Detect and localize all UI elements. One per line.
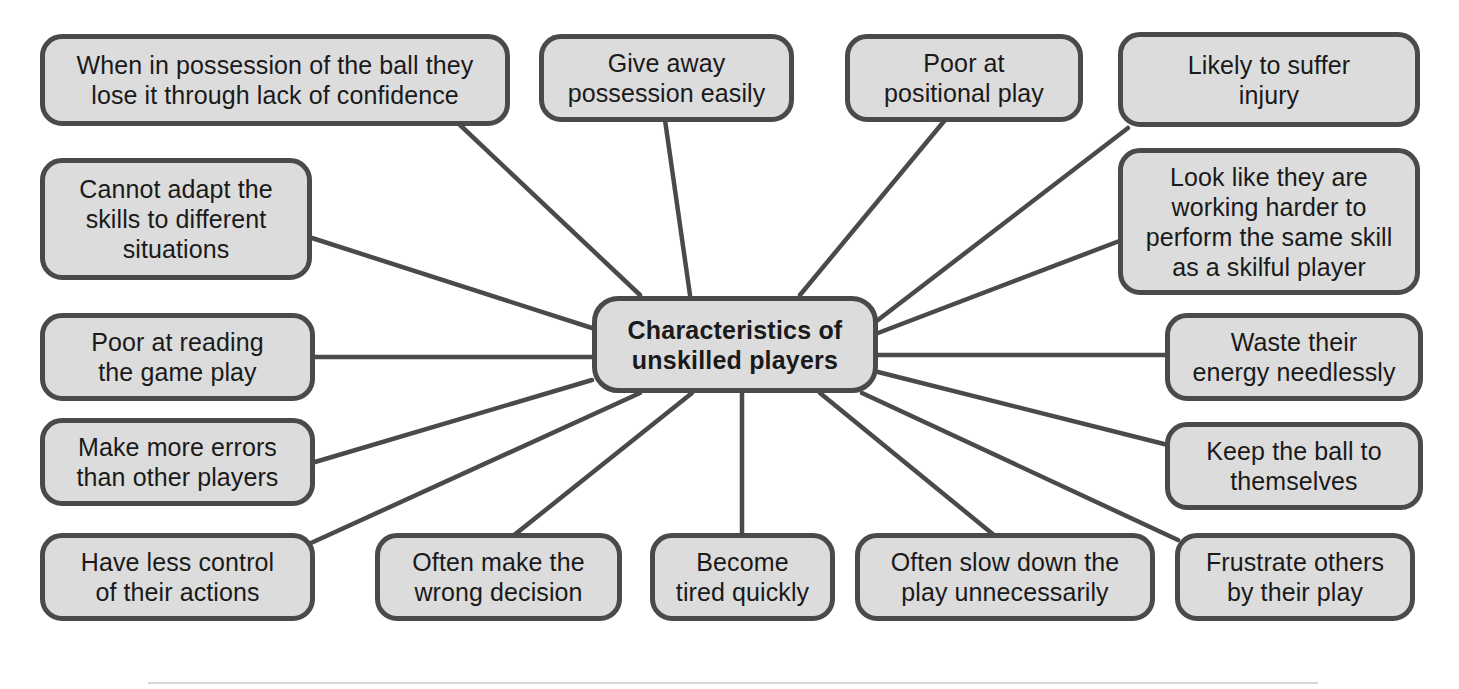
node-frustrate-others[interactable]: Frustrate others by their play <box>1175 533 1415 621</box>
center-node-label: Characteristics of unskilled players <box>618 315 853 375</box>
node-lose-possession-confidence[interactable]: When in possession of the ball they lose… <box>40 34 510 126</box>
node-label: Poor at reading the game play <box>81 327 273 387</box>
node-label: Have less control of their actions <box>71 547 284 607</box>
node-label: Often slow down the play unnecessarily <box>881 547 1129 607</box>
node-label: Keep the ball to themselves <box>1196 436 1391 496</box>
node-label: Become tired quickly <box>666 547 819 607</box>
node-become-tired[interactable]: Become tired quickly <box>650 533 835 621</box>
connector-poor-positional-play <box>800 120 945 295</box>
connector-lose-possession-confidence <box>460 125 640 295</box>
node-working-harder[interactable]: Look like they are working harder to per… <box>1118 148 1420 295</box>
node-label: Frustrate others by their play <box>1196 547 1394 607</box>
connector-cannot-adapt-skills <box>312 238 592 328</box>
node-poor-reading-game[interactable]: Poor at reading the game play <box>40 313 315 401</box>
node-slow-down-play[interactable]: Often slow down the play unnecessarily <box>855 533 1155 621</box>
node-label: Poor at positional play <box>874 48 1054 108</box>
node-less-control[interactable]: Have less control of their actions <box>40 533 315 621</box>
node-label: Likely to suffer injury <box>1178 50 1360 110</box>
connector-give-away-possession <box>665 120 690 295</box>
node-label: When in possession of the ball they lose… <box>67 50 484 110</box>
center-node[interactable]: Characteristics of unskilled players <box>592 296 878 393</box>
node-label: Cannot adapt the skills to different sit… <box>69 174 282 264</box>
connector-working-harder <box>878 240 1122 333</box>
node-make-more-errors[interactable]: Make more errors than other players <box>40 418 315 506</box>
mind-map-diagram: When in possession of the ball they lose… <box>0 0 1459 689</box>
node-poor-positional-play[interactable]: Poor at positional play <box>845 34 1083 122</box>
node-label: Waste their energy needlessly <box>1182 327 1405 387</box>
scan-artifact-line <box>148 682 1318 684</box>
node-likely-suffer-injury[interactable]: Likely to suffer injury <box>1118 32 1420 127</box>
node-keep-ball-to-themselves[interactable]: Keep the ball to themselves <box>1165 422 1423 510</box>
node-cannot-adapt-skills[interactable]: Cannot adapt the skills to different sit… <box>40 158 312 280</box>
node-give-away-possession[interactable]: Give away possession easily <box>539 34 794 122</box>
node-waste-energy[interactable]: Waste their energy needlessly <box>1165 313 1423 401</box>
connector-keep-ball-to-themselves <box>878 372 1168 445</box>
connector-make-more-errors <box>315 380 592 462</box>
node-wrong-decision[interactable]: Often make the wrong decision <box>375 533 622 621</box>
node-label: Often make the wrong decision <box>402 547 594 607</box>
node-label: Give away possession easily <box>558 48 776 108</box>
node-label: Look like they are working harder to per… <box>1136 162 1403 282</box>
connector-wrong-decision <box>508 393 692 540</box>
node-label: Make more errors than other players <box>67 432 289 492</box>
